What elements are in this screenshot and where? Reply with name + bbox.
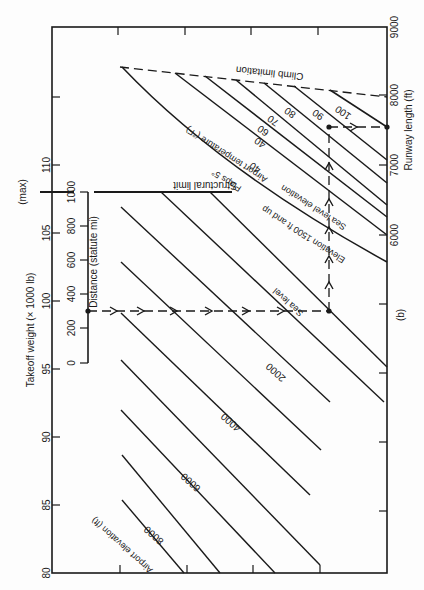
elevation-labels: Sea level 2000 4000 6000 8000 Airport el… [89,286,305,575]
svg-text:Distance (statute mi): Distance (statute mi) [88,216,99,308]
svg-text:80: 80 [41,567,52,579]
svg-text:85: 85 [41,499,52,511]
top-ticks [118,27,318,35]
svg-text:110: 110 [41,157,52,173]
distance-axis: 0 200 400 600 800 1000 Distance (statute… [66,180,99,365]
svg-text:80: 80 [282,105,298,121]
svg-text:Takeoff weight (× 1000 lb): Takeoff weight (× 1000 lb) [25,273,36,388]
figure-label: (b) [395,309,406,321]
svg-text:2000: 2000 [263,361,287,384]
elevation-lines [121,192,387,573]
svg-text:0: 0 [66,360,77,366]
svg-text:Sea level: Sea level [271,286,305,318]
svg-text:105: 105 [41,224,52,241]
svg-text:4000: 4000 [218,411,242,434]
climb-limitation-label: Climb limitation [235,64,304,82]
svg-text:8000: 8000 [389,83,400,106]
weight-axis-labels: 80 85 90 95 100 105 110 (max) Takeoff we… [17,157,52,579]
svg-text:200: 200 [66,319,77,336]
svg-text:6000: 6000 [389,223,400,246]
svg-text:1000: 1000 [66,180,77,203]
svg-text:(max): (max) [17,179,28,205]
svg-text:95: 95 [41,363,52,375]
svg-text:800: 800 [66,217,77,234]
svg-text:600: 600 [66,251,77,268]
svg-text:7000: 7000 [389,153,400,176]
runway-axis: 6000 7000 8000 9000 Runway length (ft) [379,15,414,511]
svg-text:Airport elevation (ft): Airport elevation (ft) [89,515,154,575]
svg-text:100: 100 [41,292,52,309]
svg-text:90: 90 [41,431,52,443]
svg-text:9000: 9000 [389,15,400,38]
svg-text:Runway length (ft): Runway length (ft) [403,89,414,170]
svg-text:400: 400 [66,285,77,302]
takeoff-chart: 80 85 90 95 100 105 110 (max) Takeoff we… [0,0,424,590]
